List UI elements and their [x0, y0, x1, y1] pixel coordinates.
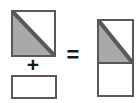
- square-diagonal-graphic: [13, 12, 54, 55]
- plus-operator: +: [23, 54, 43, 72]
- result-lower-rectangle: [99, 64, 132, 95]
- equals-operator: =: [62, 44, 84, 64]
- stacked-composite-shape: [97, 19, 134, 97]
- diagram-canvas: + =: [0, 0, 140, 103]
- result-upper-square: [99, 21, 132, 64]
- plain-rectangle-shape: [11, 75, 57, 99]
- square-with-diagonal-shape: [11, 10, 56, 57]
- result-square-diagonal-graphic: [99, 21, 132, 62]
